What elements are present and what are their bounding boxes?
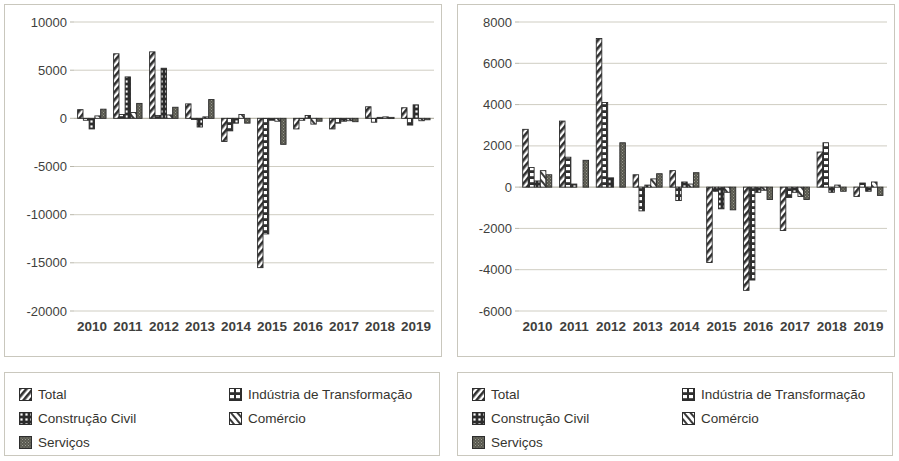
- bar: [651, 179, 657, 187]
- bar: [275, 118, 280, 121]
- chart-panel-right: 80006000400020000-2000-4000-600020102011…: [449, 0, 899, 461]
- bar: [559, 121, 565, 187]
- svg-text:2013: 2013: [633, 319, 664, 334]
- legend-item-servicos[interactable]: Serviços: [472, 435, 682, 450]
- bar: [730, 187, 736, 210]
- swatch-servicos-icon: [472, 436, 485, 449]
- bar: [341, 118, 346, 121]
- svg-text:2012: 2012: [596, 319, 626, 334]
- legend-item-construcao[interactable]: Construção Civil: [19, 411, 229, 426]
- svg-text:2015: 2015: [706, 319, 737, 334]
- bar: [95, 116, 100, 118]
- bar: [407, 118, 412, 125]
- bar: [835, 185, 841, 187]
- svg-text:2015: 2015: [257, 319, 288, 334]
- bar: [633, 175, 639, 187]
- bar: [263, 118, 268, 234]
- bar: [203, 117, 208, 118]
- bar: [402, 108, 407, 119]
- legend-item-comercio[interactable]: Comércio: [682, 411, 899, 426]
- bar: [620, 143, 626, 187]
- svg-text:2011: 2011: [560, 319, 590, 334]
- bar: [565, 157, 571, 187]
- svg-text:2017: 2017: [780, 319, 810, 334]
- bar: [413, 105, 418, 118]
- legend-item-construcao[interactable]: Construção Civil: [472, 411, 682, 426]
- bar: [823, 143, 829, 187]
- bar: [197, 118, 202, 127]
- bar: [371, 118, 376, 122]
- legend-label-servicos: Serviços: [491, 435, 543, 450]
- svg-text:4000: 4000: [483, 97, 512, 112]
- legend-item-industria[interactable]: Indústria de Transformação: [682, 387, 899, 402]
- bar: [817, 152, 823, 187]
- legend-label-comercio: Comércio: [701, 411, 759, 426]
- svg-text:2010: 2010: [77, 319, 107, 334]
- svg-text:2000: 2000: [483, 138, 512, 153]
- swatch-construcao-icon: [472, 412, 485, 425]
- bar: [639, 187, 645, 211]
- legend-item-comercio[interactable]: Comércio: [229, 411, 449, 426]
- legend-item-total[interactable]: Total: [472, 387, 682, 402]
- right-legend-items: Total Indústria de Transform: [472, 382, 899, 454]
- bar: [330, 118, 335, 129]
- bar: [596, 39, 602, 188]
- svg-text:6000: 6000: [483, 56, 512, 71]
- legend-label-construcao: Construção Civil: [38, 411, 136, 426]
- right-chart-legend: Total Indústria de Transform: [457, 372, 893, 456]
- swatch-industria-icon: [229, 388, 242, 401]
- svg-text:2013: 2013: [185, 319, 216, 334]
- legend-label-industria: Indústria de Transformação: [701, 387, 865, 402]
- bar: [854, 187, 860, 196]
- legend-item-total[interactable]: Total: [19, 387, 229, 402]
- bar: [317, 118, 322, 121]
- bar: [347, 118, 352, 120]
- bar: [804, 187, 810, 199]
- bar: [419, 118, 424, 120]
- svg-text:2017: 2017: [329, 319, 359, 334]
- bar: [125, 77, 130, 118]
- legend-item-industria[interactable]: Indústria de Transformação: [229, 387, 449, 402]
- bar: [222, 118, 227, 141]
- bar: [425, 118, 430, 119]
- legend-item-servicos[interactable]: Serviços: [19, 435, 229, 450]
- svg-text:2018: 2018: [365, 319, 396, 334]
- chart-panel-left: 1000050000-5000-10000-15000-200002010201…: [0, 0, 449, 461]
- bar: [713, 187, 719, 191]
- svg-text:-10000: -10000: [27, 207, 67, 222]
- bar: [173, 107, 178, 118]
- bar: [389, 117, 394, 118]
- left-chart-plot: 1000050000-5000-10000-15000-200002010201…: [4, 4, 440, 355]
- bar: [877, 187, 883, 195]
- legend-label-total: Total: [38, 387, 67, 402]
- svg-text:2014: 2014: [670, 319, 701, 334]
- legend-label-total: Total: [491, 387, 520, 402]
- bar: [161, 68, 166, 118]
- bar: [150, 52, 155, 118]
- bar: [767, 187, 773, 199]
- bar: [101, 109, 106, 118]
- bar: [693, 173, 699, 187]
- svg-text:-20000: -20000: [27, 304, 67, 319]
- bar: [780, 187, 786, 230]
- bar: [602, 103, 608, 188]
- bar: [366, 107, 371, 119]
- bar: [743, 187, 749, 290]
- bar: [608, 178, 614, 187]
- svg-text:2016: 2016: [293, 319, 324, 334]
- bar: [866, 187, 872, 191]
- svg-text:-5000: -5000: [34, 159, 67, 174]
- bar: [155, 115, 160, 118]
- bar: [755, 187, 761, 192]
- bar: [131, 113, 136, 119]
- right-chart-plot: 80006000400020000-2000-4000-600020102011…: [457, 4, 893, 355]
- bar: [239, 114, 244, 118]
- bar: [335, 118, 340, 123]
- bar: [209, 100, 214, 119]
- swatch-comercio-icon: [682, 412, 695, 425]
- svg-text:-6000: -6000: [479, 304, 512, 319]
- bar: [137, 103, 142, 118]
- bar: [191, 118, 196, 119]
- bar: [841, 187, 847, 191]
- bar: [529, 168, 535, 188]
